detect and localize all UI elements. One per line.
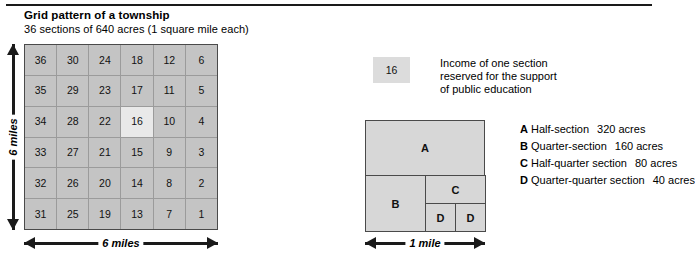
section-part-c: C (425, 175, 486, 204)
township-section-30: 30 (57, 45, 88, 75)
township-width-label: 6 miles (98, 235, 143, 251)
township-section-20: 20 (89, 168, 120, 198)
top-divider-rule (6, 4, 652, 6)
section-key-letter: B (520, 140, 531, 152)
arrow-right-icon (474, 237, 485, 249)
township-section-16: 16 (121, 107, 152, 137)
section-part-a: A (365, 120, 485, 176)
township-section-4: 4 (186, 107, 217, 137)
section-part-d-right: D (455, 203, 486, 232)
section-subdivision-diagram: A B C D D (365, 120, 485, 230)
education-legend-swatch: 16 (373, 57, 410, 83)
section-key-list: AHalf-section320 acresBQuarter-section16… (520, 123, 695, 191)
township-height-label: 6 miles (6, 114, 20, 159)
township-section-11: 11 (154, 76, 185, 106)
township-section-18: 18 (121, 45, 152, 75)
township-section-25: 25 (57, 199, 88, 229)
section-key-name: Half-quarter section (531, 157, 627, 169)
page-title: Grid pattern of a township (24, 9, 170, 21)
township-width-measure: 6 miles (24, 236, 218, 250)
section-key-row-c: CHalf-quarter section80 acres (520, 157, 695, 174)
section-key-letter: C (520, 157, 531, 169)
arrow-left-icon (24, 237, 35, 249)
township-section-26: 26 (57, 168, 88, 198)
township-section-23: 23 (89, 76, 120, 106)
township-section-3: 3 (186, 138, 217, 168)
section-key-row-d: DQuarter-quarter section40 acres (520, 174, 695, 191)
township-section-14: 14 (121, 168, 152, 198)
township-section-13: 13 (121, 199, 152, 229)
township-section-22: 22 (89, 107, 120, 137)
education-legend-description: Income of one sectionreserved for the su… (440, 57, 557, 97)
township-section-7: 7 (154, 199, 185, 229)
section-key-acres: 320 acres (597, 123, 645, 135)
education-legend-line: Income of one section (440, 57, 557, 70)
township-section-32: 32 (25, 168, 56, 198)
section-width-measure: 1 mile (365, 236, 485, 250)
township-section-21: 21 (89, 138, 120, 168)
section-key-name: Quarter-quarter section (531, 174, 645, 186)
township-section-24: 24 (89, 45, 120, 75)
township-section-19: 19 (89, 199, 120, 229)
section-key-acres: 80 acres (635, 157, 677, 169)
arrow-right-icon (207, 237, 218, 249)
arrow-left-icon (365, 237, 376, 249)
township-section-27: 27 (57, 138, 88, 168)
township-section-6: 6 (186, 45, 217, 75)
arrow-down-icon (7, 219, 19, 230)
township-section-2: 2 (186, 168, 217, 198)
section-key-letter: D (520, 174, 531, 186)
section-key-row-a: AHalf-section320 acres (520, 123, 695, 140)
education-legend-line: of public education (440, 83, 557, 96)
section-key-acres: 40 acres (653, 174, 695, 186)
section-key-name: Quarter-section (531, 140, 607, 152)
township-section-5: 5 (186, 76, 217, 106)
township-section-35: 35 (25, 76, 56, 106)
arrow-up-icon (7, 44, 19, 55)
township-section-10: 10 (154, 107, 185, 137)
section-key-letter: A (520, 123, 531, 135)
section-key-acres: 160 acres (615, 140, 663, 152)
education-legend-line: reserved for the support (440, 70, 557, 83)
township-section-33: 33 (25, 138, 56, 168)
township-section-12: 12 (154, 45, 185, 75)
township-section-17: 17 (121, 76, 152, 106)
section-key-row-b: BQuarter-section160 acres (520, 140, 695, 157)
education-legend: 16 Income of one sectionreserved for the… (373, 57, 557, 97)
township-section-31: 31 (25, 199, 56, 229)
township-section-8: 8 (154, 168, 185, 198)
township-grid: 3630241812635292317115342822161043327211… (24, 44, 218, 230)
township-section-1: 1 (186, 199, 217, 229)
township-section-9: 9 (154, 138, 185, 168)
section-key-name: Half-section (531, 123, 589, 135)
section-part-b: B (365, 175, 426, 232)
township-section-29: 29 (57, 76, 88, 106)
township-section-34: 34 (25, 107, 56, 137)
section-part-d-left: D (425, 203, 456, 232)
township-section-36: 36 (25, 45, 56, 75)
township-height-measure: 6 miles (6, 44, 20, 230)
page-subtitle: 36 sections of 640 acres (1 square mile … (24, 23, 249, 35)
township-section-15: 15 (121, 138, 152, 168)
section-width-label: 1 mile (405, 235, 444, 251)
township-section-28: 28 (57, 107, 88, 137)
